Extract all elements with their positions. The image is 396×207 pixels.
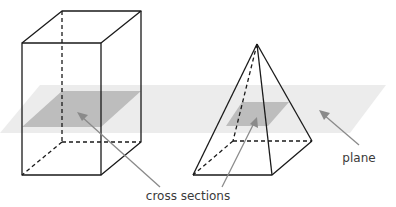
cross-section-diagram: cross sections plane (0, 0, 396, 207)
cross-sections-label: cross sections (146, 189, 230, 203)
plane-label: plane (342, 151, 375, 165)
pyramid-hidden-edge (193, 141, 233, 175)
prism-hidden-edge (22, 142, 62, 175)
pyramid-base-edges (193, 141, 312, 175)
prism-top-edges (22, 11, 141, 43)
